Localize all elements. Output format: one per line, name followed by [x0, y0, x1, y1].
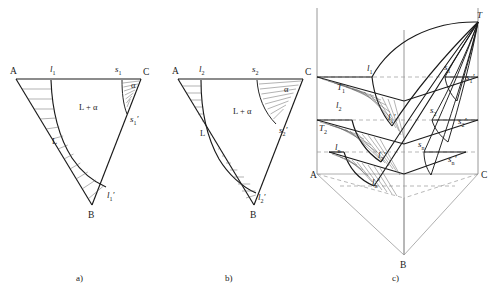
- panel-b-region-alpha: α: [284, 84, 289, 94]
- panel-c-label-s2: s2: [430, 105, 437, 117]
- panel-c-Tn-hatching: [332, 154, 397, 196]
- panel-c-Tn-left-edge: [329, 152, 404, 174]
- panel-a-liquidus-curve: [51, 80, 106, 187]
- panel-b-L-hatching: [182, 86, 256, 198]
- caption-a: a): [76, 273, 83, 283]
- figure-canvas: A C B l1 s1 s1′ l1′ L L + α α: [0, 0, 497, 294]
- panel-c-vertex-B: B: [400, 260, 406, 270]
- panel-a-region-L-alpha: L + α: [79, 102, 98, 112]
- panel-a-vertex-B: B: [88, 210, 94, 220]
- panel-b-label-s2: s2: [252, 64, 259, 76]
- phase-diagram-figure: A C B l1 s1 s1′ l1′ L L + α α: [0, 0, 497, 294]
- panel-a-label-l1-prime: l1′: [107, 190, 116, 202]
- panel-b-region-L: L: [200, 128, 205, 138]
- panel-a-vertex-C: C: [143, 67, 149, 77]
- panel-a-region-L: L: [52, 136, 57, 146]
- panel-b-label-l2: l2: [199, 64, 205, 76]
- caption-c: c): [392, 273, 399, 283]
- panel-b: A C B l2 s2 s2′ l2′ L L + α α: [172, 64, 311, 220]
- panel-c-solidus-ridge-3: [432, 22, 478, 120]
- panel-b-liquidus-curve: [201, 80, 256, 193]
- panel-a-vertex-A: A: [10, 66, 17, 76]
- panel-c-vertex-C: C: [481, 170, 487, 180]
- panel-c-section-Tn: [329, 152, 466, 186]
- panel-c-label-s2-prime: s2′: [458, 116, 468, 128]
- panel-b-label-s2-prime: s2′: [279, 125, 289, 137]
- panel-c-T2-hatching: [320, 122, 400, 175]
- panel-c-label-l1: l1: [367, 63, 373, 75]
- panel-c-label-T2: T2: [319, 123, 327, 135]
- panel-c-liquidus-ridge-1: [372, 22, 478, 77]
- panel-a-label-l1: l1: [50, 64, 56, 76]
- panel-a: A C B l1 s1 s1′ l1′ L L + α α: [10, 64, 149, 220]
- panel-c-label-s1: s1: [444, 62, 451, 74]
- panel-c-liquidus-ridge-3: [381, 22, 478, 162]
- caption-b: b): [225, 273, 233, 283]
- panel-c-T1-hatching: [322, 79, 404, 138]
- panel-a-region-alpha: α: [131, 80, 136, 90]
- panel-a-label-s1-prime: s1′: [130, 114, 140, 126]
- panel-b-region-L-alpha: L + α: [233, 106, 252, 116]
- panel-a-label-s1: s1: [115, 64, 122, 76]
- panel-c-label-l1-prime: l1′: [388, 112, 397, 124]
- panel-c-Tn-liquidus: [344, 152, 374, 186]
- panel-b-left-edge: [178, 79, 254, 205]
- panel-a-solidus-curve: [122, 80, 127, 114]
- panel-b-vertex-A: A: [172, 66, 179, 76]
- panel-b-right-edge: [254, 79, 303, 205]
- panel-c-perspective-guides: [317, 174, 478, 255]
- panel-c-label-sn-prime: sn′: [448, 154, 458, 166]
- panel-c-Tn-solidus: [424, 152, 431, 175]
- panel-c-vertex-A: A: [310, 170, 317, 180]
- panel-c-label-T1: T1: [337, 82, 345, 94]
- panel-c: A C B T T1 T2 l1 l2 ln l1′ l2′ ln′ s1 s2…: [310, 8, 487, 270]
- panel-c-apex-T: T: [477, 10, 483, 20]
- panel-c-label-l2: l2: [336, 100, 342, 112]
- panel-c-label-ln-prime: ln′: [372, 177, 381, 189]
- panel-c-label-s1-prime: s1′: [466, 72, 476, 84]
- panel-b-label-l2-prime: l2′: [258, 192, 267, 204]
- panel-b-vertex-C: C: [305, 67, 311, 77]
- panel-c-T2-right-edge: [404, 120, 478, 144]
- panel-a-right-edge: [92, 79, 141, 205]
- panel-b-vertex-B: B: [250, 210, 256, 220]
- panel-c-label-ln: ln: [335, 142, 341, 154]
- panel-c-T1-left-edge: [317, 77, 404, 101]
- panel-c-label-sn: sn: [418, 139, 425, 151]
